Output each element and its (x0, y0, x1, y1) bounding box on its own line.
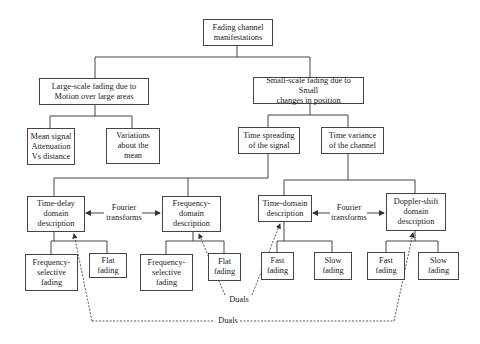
frequency-domain-node: Frequency- domain description (162, 196, 221, 232)
fourier-transforms-label-right: Fourier transforms (327, 203, 371, 223)
connector-lines (0, 0, 480, 344)
root-node: Fading channel manifestations (203, 19, 273, 46)
doppler-shift-domain-node: Doppler-shift domain description (386, 193, 446, 231)
large-scale-fading-node: Large-scale fading due to Motion over la… (39, 78, 149, 105)
fading-channel-diagram: Fading channel manifestations Large-scal… (0, 0, 480, 344)
slow-fading-node-1: Slow fading (314, 252, 352, 280)
fast-fading-node-2: Fast fading (367, 252, 405, 280)
mean-signal-node: Mean signal Attenuation Vs distance (27, 128, 75, 165)
small-scale-fading-node: Small-scale fading due to Small changes … (253, 77, 364, 104)
flat-fading-node-2: Flat fading (208, 253, 241, 281)
slow-fading-node-2: Slow fading (418, 252, 459, 280)
variations-node: Variations about the mean (106, 128, 160, 164)
time-spreading-node: Time spreading of the signal (238, 127, 300, 154)
time-variance-node: Time variance of the channel (321, 127, 384, 154)
duals-label-outer: Duals (214, 316, 242, 326)
flat-fading-node-1: Flat fading (89, 253, 127, 278)
time-domain-node: Time-domain description (258, 195, 312, 222)
time-delay-domain-node: Time-delay domain description (27, 196, 85, 232)
fourier-transforms-label-left: Fourier transforms (102, 203, 146, 223)
frequency-selective-fading-node-2: Frequency- selective fading (140, 254, 193, 291)
frequency-selective-fading-node-1: Frequency- selective fading (25, 254, 78, 291)
duals-label-inner: Duals (225, 295, 253, 305)
fast-fading-node-1: Fast fading (261, 252, 294, 280)
